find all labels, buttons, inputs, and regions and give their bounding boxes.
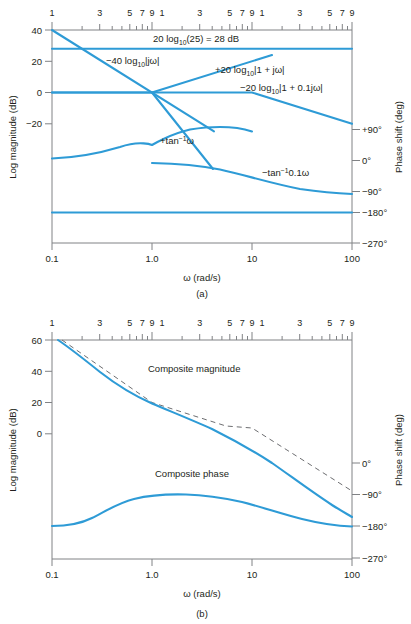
top-tick-label: 1	[159, 318, 164, 328]
top-tick-label: 5	[227, 8, 232, 18]
top-tick-label: 5	[327, 8, 332, 18]
top-tick-label: 7	[340, 8, 345, 18]
top-tick-label: 3	[297, 8, 302, 18]
panel-b-right-tick-labels: 0° −90° −180° −270°	[362, 458, 387, 564]
top-tick-label: 3	[197, 318, 202, 328]
double-integrator-label: −40 log10|jω|	[106, 55, 159, 68]
y-tick-label: 20	[31, 397, 42, 408]
panel-a-bottom-tick-labels: 0.1 1.0 10 100	[45, 253, 360, 264]
x-tick-label: 100	[344, 253, 360, 264]
panel-b-left-ticks	[45, 340, 52, 434]
top-tick-label: 5	[327, 318, 332, 328]
zero-phase-label: +tan−1ω	[160, 135, 195, 147]
top-tick-label: 7	[240, 8, 245, 18]
y-tick-label: 0	[37, 87, 42, 98]
panel-a-caption: (a)	[196, 288, 208, 299]
phase-tick-label: 0°	[362, 155, 371, 166]
top-tick-label: 5	[127, 318, 132, 328]
panel-a-right-tick-labels: +90° 0° −90° −180° −270°	[362, 124, 387, 249]
panel-b-top-ticks	[52, 332, 352, 340]
panel-a-axes	[52, 30, 352, 243]
top-tick-label: 9	[349, 318, 354, 328]
top-tick-label: 7	[340, 318, 345, 328]
phase-tick-label: −90°	[362, 186, 382, 197]
x-tick-label: 0.1	[45, 569, 58, 580]
top-tick-label: 3	[297, 318, 302, 328]
zero-magnitude-label: +20 log10|1 + jω|	[215, 64, 285, 77]
curve-pole-phase	[152, 163, 352, 194]
y-tick-label: −20	[26, 118, 42, 129]
panel-b-right-ticks	[352, 463, 360, 558]
top-tick-label: 1	[259, 8, 264, 18]
top-tick-label: 9	[249, 8, 254, 18]
phase-tick-label: −180°	[362, 207, 387, 218]
phase-tick-label: −180°	[362, 521, 387, 532]
pole-magnitude-label: −20 log10|1 + 0.1jω|	[240, 82, 323, 95]
panel-a-left-ticks	[45, 30, 52, 124]
panel-a-right-ticks	[352, 130, 360, 244]
top-tick-label: 1	[259, 318, 264, 328]
panel-b-ylabel-left: Log magnitude (dB)	[7, 408, 18, 491]
x-tick-label: 10	[247, 253, 258, 264]
panel-b: 1 3 5 7 9 1 3 5 7 9 1 3 5 7 9	[0, 300, 411, 624]
phase-tick-label: −270°	[362, 238, 387, 249]
top-tick-label: 3	[97, 318, 102, 328]
panel-a-top-ticks	[52, 22, 352, 30]
x-tick-label: 10	[247, 569, 258, 580]
curve-pole-magnitude	[52, 93, 352, 124]
panel-b-top-tick-labels: 1 3 5 7 9 1 3 5 7 9 1 3 5 7 9	[49, 318, 354, 328]
panel-b-left-tick-labels: 60 40 20 0	[31, 335, 42, 440]
x-tick-label: 1.0	[145, 569, 158, 580]
phase-tick-label: −270°	[362, 553, 387, 564]
x-tick-label: 1.0	[145, 253, 158, 264]
top-tick-label: 3	[97, 8, 102, 18]
y-tick-label: 0	[37, 428, 42, 439]
top-tick-label: 7	[140, 318, 145, 328]
composite-phase-label: Composite phase	[155, 468, 229, 479]
top-tick-label: 9	[149, 318, 154, 328]
top-tick-label: 5	[127, 8, 132, 18]
top-tick-label: 9	[349, 8, 354, 18]
panel-a-bottom-ticks	[52, 243, 352, 250]
curve-zero-phase	[52, 127, 252, 159]
panel-a-top-tick-labels: 1 3 5 7 9 1 3 5 7 9 1 3 5 7 9	[49, 8, 354, 18]
y-tick-label: 20	[31, 56, 42, 67]
panel-b-caption: (b)	[196, 608, 208, 619]
top-tick-label: 9	[149, 8, 154, 18]
y-tick-label: 60	[31, 335, 42, 346]
panel-b-bottom-tick-labels: 0.1 1.0 10 100	[45, 569, 360, 580]
panel-a-xlabel: ω (rad/s)	[183, 272, 221, 283]
top-tick-label: 1	[49, 318, 54, 328]
panel-b-xlabel: ω (rad/s)	[183, 588, 221, 599]
panel-a-ylabel-left: Log magnitude (dB)	[7, 95, 18, 178]
top-tick-label: 1	[159, 8, 164, 18]
bode-plot-figure: 1 3 5 7 9 1 3 5 7 9 1 3 5 7 9	[0, 0, 411, 624]
top-tick-label: 5	[227, 318, 232, 328]
panel-a-ylabel-right: Phase shift (deg)	[393, 101, 404, 173]
panel-a-svg: 1 3 5 7 9 1 3 5 7 9 1 3 5 7 9	[0, 0, 411, 300]
panel-a-left-tick-labels: 40 20 0 −20	[26, 25, 42, 130]
top-tick-label: 1	[49, 8, 54, 18]
gain-constant-label: 20 log10(25) = 28 dB	[153, 33, 239, 46]
phase-tick-label: −90°	[362, 489, 382, 500]
phase-tick-label: +90°	[362, 124, 382, 135]
pole-phase-label: −tan−10.1ω	[262, 167, 310, 179]
panel-b-bottom-ticks	[52, 559, 352, 566]
y-tick-label: 40	[31, 25, 42, 36]
panel-b-svg: 1 3 5 7 9 1 3 5 7 9 1 3 5 7 9	[0, 300, 411, 624]
panel-a: 1 3 5 7 9 1 3 5 7 9 1 3 5 7 9	[0, 0, 411, 300]
phase-tick-label: 0°	[362, 458, 371, 469]
top-tick-label: 3	[197, 8, 202, 18]
top-tick-label: 7	[240, 318, 245, 328]
top-tick-label: 9	[249, 318, 254, 328]
x-tick-label: 0.1	[45, 253, 58, 264]
composite-magnitude-label: Composite magnitude	[148, 363, 240, 374]
top-tick-label: 7	[140, 8, 145, 18]
y-tick-label: 40	[31, 366, 42, 377]
x-tick-label: 100	[344, 569, 360, 580]
curve-composite-phase	[52, 494, 352, 526]
panel-b-ylabel-right: Phase shift (deg)	[393, 414, 404, 486]
